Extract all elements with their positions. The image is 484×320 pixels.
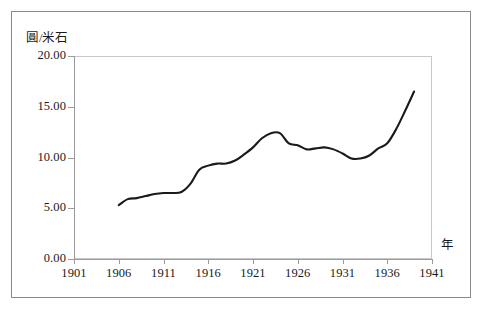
chart-figure: 圓/米石 年 0.005.0010.0015.0020.00 190119061… (0, 0, 484, 320)
x-tick-mark (164, 259, 165, 264)
y-tick-label: 5.00 (4, 201, 66, 214)
x-tick-mark (432, 259, 433, 264)
figure-caption (0, 308, 484, 320)
plot-area-frame (74, 56, 432, 259)
x-tick-mark (119, 259, 120, 264)
y-axis-title: 圓/米石 (26, 31, 68, 45)
x-tick-mark (387, 259, 388, 264)
x-tick-mark (208, 259, 209, 264)
x-tick-mark (253, 259, 254, 264)
x-tick-label: 1941 (404, 266, 460, 280)
y-tick-label: 15.00 (4, 100, 66, 113)
y-tick-mark (68, 107, 74, 108)
y-tick-label: 10.00 (4, 151, 66, 164)
y-tick-mark (68, 56, 74, 57)
x-axis-title: 年 (441, 238, 454, 252)
y-tick-label: 20.00 (4, 49, 66, 62)
y-tick-mark (68, 158, 74, 159)
y-tick-label: 0.00 (4, 252, 66, 265)
y-tick-mark (68, 208, 74, 209)
x-tick-mark (74, 259, 75, 264)
x-tick-mark (343, 259, 344, 264)
y-axis-line (74, 56, 75, 260)
x-tick-mark (298, 259, 299, 264)
